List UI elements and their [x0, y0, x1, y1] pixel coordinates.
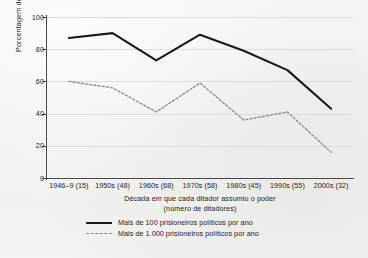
gridline [47, 81, 353, 82]
y-tick-label: 60 [18, 77, 44, 86]
y-tick-label: 100 [18, 13, 44, 22]
x-tick-label: 1950s (48) [95, 181, 130, 190]
gridline [47, 17, 353, 18]
x-axis-title-line2: (número de ditadores) [47, 204, 353, 214]
gridline [47, 146, 353, 147]
legend-item-solid: Mais de 100 prisioneiros políticos por a… [86, 217, 306, 228]
y-tick-label: 80 [18, 45, 44, 54]
line-chart-figure: Porcentagem de ditadores 020406080100 19… [0, 0, 368, 258]
legend-item-dotted: Mais de 1.000 prisioneiros políticos por… [86, 228, 306, 239]
y-tick-label: 40 [18, 109, 44, 118]
x-tick-label: 1990s (55) [270, 181, 305, 190]
x-tick-label: 1980s (45) [226, 181, 261, 190]
legend-swatch-dotted-icon [86, 230, 112, 238]
legend-label-solid: Mais de 100 prisioneiros políticos por a… [118, 218, 253, 227]
gridline [47, 49, 353, 50]
x-tick-label: 1946–9 (15) [49, 181, 88, 190]
series-line-1 [69, 33, 331, 109]
legend-swatch-solid-icon [86, 219, 112, 227]
x-axis-line [46, 178, 354, 179]
y-tick-label: 0 [18, 174, 44, 183]
chart-legend: Mais de 100 prisioneiros políticos por a… [86, 217, 306, 239]
x-tick-label: 1960s (68) [139, 181, 174, 190]
gridline [47, 114, 353, 115]
x-tick-label: 1970s (58) [183, 181, 218, 190]
y-tick-label: 20 [18, 141, 44, 150]
x-axis-title: Década em que cada ditador assumiu o pod… [47, 194, 353, 213]
legend-label-dotted: Mais de 1.000 prisioneiros políticos por… [118, 229, 259, 238]
series-line-2 [69, 81, 331, 152]
x-axis-title-line1: Década em que cada ditador assumiu o pod… [47, 194, 353, 204]
y-axis-line [46, 15, 47, 180]
x-tick-label: 2000s (32) [314, 181, 349, 190]
